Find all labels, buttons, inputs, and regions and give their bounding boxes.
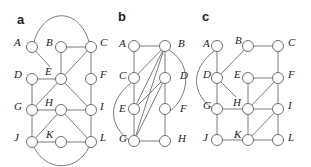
graph-diagram: aABCDEFGHIJKLbABCDEFGHcABCDEFGHIJKL	[0, 0, 311, 167]
edge-a-A-C	[34, 16, 89, 42]
node-label-a-H: H	[44, 96, 54, 108]
node-label-c-E: E	[233, 68, 241, 80]
node-a-K	[56, 137, 67, 148]
edge-c-I-K	[248, 109, 278, 140]
node-label-b-B: B	[178, 37, 185, 49]
node-c-J	[212, 135, 223, 146]
node-a-E	[56, 74, 67, 85]
node-label-b-E: E	[118, 102, 126, 114]
edge-a-E-I	[61, 79, 91, 110]
node-a-H	[56, 105, 67, 116]
node-b-F	[160, 104, 171, 115]
node-b-C	[129, 73, 140, 84]
node-b-B	[160, 41, 171, 52]
node-label-a-F: F	[99, 68, 107, 80]
node-c-F	[273, 73, 284, 84]
node-b-A	[129, 41, 140, 52]
node-b-D	[160, 73, 171, 84]
panel-label-a: a	[17, 12, 25, 27]
node-c-A	[212, 41, 223, 52]
node-label-a-L: L	[99, 131, 106, 143]
node-a-A	[27, 42, 38, 53]
node-label-c-A: A	[202, 37, 210, 49]
node-label-c-D: D	[202, 68, 211, 80]
edge-a-C-E	[61, 47, 91, 79]
node-label-a-J: J	[14, 131, 20, 143]
node-label-a-C: C	[100, 36, 108, 48]
edge-b-B-C	[134, 46, 165, 78]
node-label-a-G: G	[14, 100, 22, 112]
edge-c-F-H	[248, 78, 278, 109]
node-label-b-D: D	[179, 69, 188, 81]
node-label-b-C: C	[119, 69, 127, 81]
node-label-a-I: I	[99, 100, 105, 112]
node-label-c-I: I	[287, 99, 293, 111]
node-c-G	[212, 104, 223, 115]
panel-label-c: c	[202, 9, 209, 24]
edge-c-B-D	[217, 46, 248, 78]
node-b-G	[129, 136, 140, 147]
node-a-B	[56, 42, 67, 53]
node-label-c-H: H	[232, 96, 242, 108]
node-c-C	[273, 41, 284, 52]
node-label-a-A: A	[13, 36, 21, 48]
panel-label-b: b	[118, 9, 126, 24]
node-c-L	[273, 135, 284, 146]
edge-a-H-L	[61, 110, 91, 142]
edge-b-D-E	[134, 78, 165, 109]
node-b-E	[129, 104, 140, 115]
node-label-c-L: L	[287, 131, 294, 143]
node-label-a-B: B	[46, 36, 53, 48]
node-c-H	[243, 104, 254, 115]
node-label-c-K: K	[233, 128, 242, 140]
node-label-b-F: F	[179, 102, 187, 114]
node-c-E	[243, 73, 254, 84]
node-label-c-C: C	[288, 36, 296, 48]
node-a-L	[86, 137, 97, 148]
node-label-a-D: D	[13, 68, 22, 80]
node-label-c-J: J	[203, 131, 209, 143]
node-a-C	[86, 42, 97, 53]
node-label-b-H: H	[177, 132, 187, 144]
node-label-c-G: G	[203, 99, 211, 111]
node-c-B	[243, 41, 254, 52]
node-a-D	[27, 74, 38, 85]
node-label-c-F: F	[287, 68, 295, 80]
node-a-F	[86, 74, 97, 85]
node-label-a-E: E	[44, 65, 52, 77]
node-c-I	[273, 104, 284, 115]
node-label-b-G: G	[119, 132, 127, 144]
node-c-D	[212, 73, 223, 84]
edge-a-J-L	[34, 147, 89, 166]
node-c-K	[243, 135, 254, 146]
node-a-J	[27, 137, 38, 148]
node-label-c-B: B	[235, 34, 242, 46]
node-a-I	[86, 105, 97, 116]
node-label-b-A: A	[118, 37, 126, 49]
node-a-G	[27, 105, 38, 116]
node-b-H	[160, 136, 171, 147]
node-label-a-K: K	[45, 128, 54, 140]
